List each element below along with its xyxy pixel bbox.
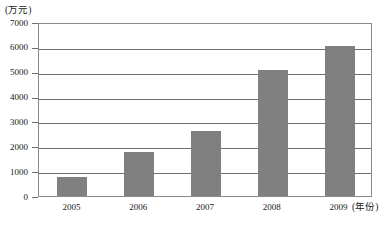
y-axis-tick-label: 3000 (10, 118, 28, 127)
x-axis-tick-label: 2005 (41, 202, 101, 212)
bar (325, 46, 355, 196)
y-axis-tick-label: 7000 (10, 19, 28, 28)
y-axis-tick (32, 197, 38, 198)
plot-area (38, 23, 372, 197)
gridline (39, 123, 371, 124)
x-axis-tick-label: 2006 (108, 202, 168, 212)
gridline (39, 99, 371, 100)
gridline (39, 49, 371, 50)
gridline (39, 74, 371, 75)
x-axis-tick-label: 2008 (242, 202, 302, 212)
y-axis-tick-label: 5000 (10, 68, 28, 77)
y-axis-tick-label: 6000 (10, 43, 28, 52)
y-axis-tick-label: 0 (24, 193, 29, 202)
x-axis-tick-label: 2007 (175, 202, 235, 212)
y-axis-tick-label: 2000 (10, 143, 28, 152)
bar (258, 70, 288, 196)
x-axis-tick-label: 2009 (309, 202, 369, 212)
y-axis-tick-label: 1000 (10, 168, 28, 177)
y-axis-unit-label: (万元) (5, 5, 31, 16)
bar (57, 177, 87, 196)
bar (124, 152, 154, 196)
bar-chart: (万元) (年份) 01000200030004000500060007000 … (0, 0, 392, 235)
y-axis-tick-label: 4000 (10, 93, 28, 102)
bar (191, 131, 221, 196)
